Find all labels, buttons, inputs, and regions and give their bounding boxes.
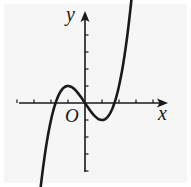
x-axis-label: x (157, 102, 167, 124)
figure-frame: y x O (0, 0, 191, 187)
cubic-function-graph: y x O (0, 0, 191, 187)
axes (17, 11, 168, 172)
function-curve (35, 0, 134, 187)
y-axis-label: y (64, 3, 75, 26)
origin-label: O (65, 105, 79, 126)
